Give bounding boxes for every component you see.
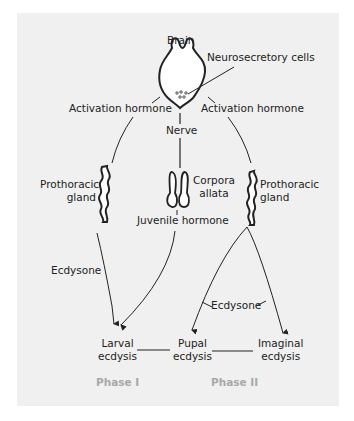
label-corpora-allata: Corporaallata bbox=[193, 174, 235, 200]
label-juvenile-hormone: Juvenile hormone bbox=[137, 214, 229, 227]
label-prothoracic-right: Prothoracicgland bbox=[260, 178, 319, 204]
label-prothoracic-left: Prothoracicgland bbox=[40, 178, 96, 204]
label-ecdysone-right: Ecdysone bbox=[211, 299, 261, 312]
label-pupal-ecdysis: Pupalecdysis bbox=[173, 337, 212, 363]
label-brain: Brain bbox=[167, 34, 195, 47]
label-activation-hormone-left: Activation hormone bbox=[69, 102, 172, 115]
prothoracic-gland-right-icon bbox=[247, 171, 257, 225]
label-nerve: Nerve bbox=[166, 124, 197, 137]
label-phase-1: Phase I bbox=[96, 376, 139, 388]
label-activation-hormone-right: Activation hormone bbox=[201, 102, 304, 115]
label-ecdysone-left: Ecdysone bbox=[51, 264, 101, 277]
label-larval-ecdysis: Larvalecdysis bbox=[98, 337, 137, 363]
label-imaginal-ecdysis: Imaginalecdysis bbox=[258, 337, 303, 363]
label-neurosecretory-cells: Neurosecretory cells bbox=[207, 51, 315, 64]
corpora-allata-icon bbox=[167, 172, 177, 207]
brain-icon bbox=[159, 38, 205, 108]
label-phase-2: Phase II bbox=[211, 376, 258, 388]
prothoracic-gland-left-icon bbox=[99, 166, 110, 222]
